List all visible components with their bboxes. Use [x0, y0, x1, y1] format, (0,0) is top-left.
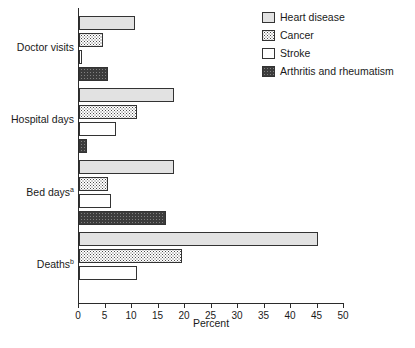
y-axis-label-bed-days-superscript: a [70, 186, 74, 193]
y-axis-label-doctor-visits: Doctor visits [2, 41, 74, 53]
bar-bed-days-stroke [79, 194, 111, 208]
x-axis-tick-30 [237, 303, 238, 308]
x-axis-tick-25 [211, 303, 212, 308]
legend-label-arthritis-and-rheumatism: Arthritis and rheumatism [280, 65, 394, 77]
x-axis-tick-35 [264, 303, 265, 308]
bar-hospital-days-arthritis-and-rheumatism [79, 139, 87, 153]
legend-item-arthritis-and-rheumatism: Arthritis and rheumatism [262, 63, 415, 79]
legend-swatch-arthritis-icon [262, 66, 275, 77]
x-axis-title: Percent [78, 317, 344, 329]
y-axis-label-hospital-days: Hospital days [2, 113, 74, 125]
x-axis-tick-15 [158, 303, 159, 308]
bar-bed-days-arthritis-and-rheumatism [79, 211, 166, 225]
x-axis-tick-20 [184, 303, 185, 308]
legend-label-cancer: Cancer [280, 29, 314, 41]
bar-bed-days-heart-disease [79, 160, 174, 174]
x-axis-tick-5 [105, 303, 106, 308]
bar-hospital-days-stroke [79, 122, 116, 136]
legend-label-stroke: Stroke [280, 47, 310, 59]
legend-swatch-heart-disease-icon [262, 12, 275, 23]
y-axis-label-bed-days-text: Bed days [26, 186, 70, 198]
bar-doctor-visits-stroke [79, 50, 82, 64]
y-axis-label-deaths-superscript: b [70, 258, 74, 265]
legend-item-cancer: Cancer [262, 27, 415, 43]
bar-bed-days-cancer [79, 177, 108, 191]
bar-doctor-visits-heart-disease [79, 16, 135, 30]
bar-doctor-visits-arthritis-and-rheumatism [79, 67, 108, 81]
legend-swatch-cancer-icon [262, 30, 275, 41]
legend-item-heart-disease: Heart disease [262, 9, 415, 25]
bar-doctor-visits-cancer [79, 33, 103, 47]
x-axis-tick-0 [78, 303, 79, 308]
y-axis-label-deaths: Deathsb [2, 258, 74, 270]
bar-hospital-days-heart-disease [79, 88, 174, 102]
y-axis-label-deaths-text: Deaths [37, 258, 70, 270]
y-axis-label-doctor-visits-text: Doctor visits [17, 41, 74, 53]
x-axis-tick-45 [317, 303, 318, 308]
legend-swatch-stroke-icon [262, 48, 275, 59]
bar-deaths-cancer [79, 249, 182, 263]
bar-deaths-heart-disease [79, 232, 318, 246]
bar-chart: Doctor visits Hospital days Bed daysa De… [0, 0, 415, 348]
legend-item-stroke: Stroke [262, 45, 415, 61]
x-axis-tick-50 [343, 303, 344, 308]
legend-label-heart-disease: Heart disease [280, 11, 345, 23]
y-axis-category-labels: Doctor visits Hospital days Bed daysa De… [0, 0, 74, 348]
x-axis-tick-10 [131, 303, 132, 308]
y-axis-label-hospital-days-text: Hospital days [11, 113, 74, 125]
bar-deaths-stroke [79, 266, 137, 280]
legend: Heart disease Cancer Stroke Arthritis an… [262, 9, 415, 81]
bar-hospital-days-cancer [79, 105, 137, 119]
y-axis-label-bed-days: Bed daysa [2, 186, 74, 198]
x-axis-tick-40 [290, 303, 291, 308]
